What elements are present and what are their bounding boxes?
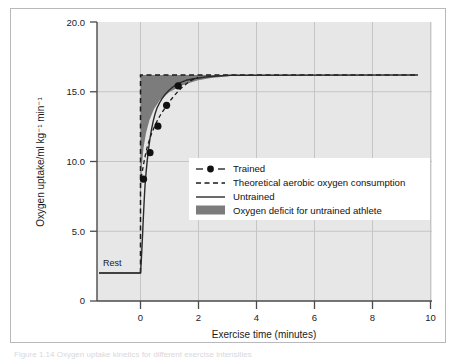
- x-tick-label: 2: [196, 312, 201, 323]
- oxygen-uptake-chart: 20.0 15.0 10.0 5.0 0 0 2 4 6 8 10 Exerci…: [0, 0, 457, 360]
- legend-swatch-icon: [196, 206, 225, 215]
- x-tick-label: 10: [425, 312, 436, 323]
- y-axis-ticks: [90, 22, 97, 301]
- y-tick-label: 20.0: [67, 17, 86, 28]
- chart-legend: Trained Theoretical aerobic oxygen consu…: [189, 158, 430, 220]
- legend-label: Untrained: [233, 191, 275, 202]
- x-tick-label: 0: [138, 312, 143, 323]
- x-tick-label: 4: [254, 312, 259, 323]
- figure-root: 20.0 15.0 10.0 5.0 0 0 2 4 6 8 10 Exerci…: [0, 0, 457, 360]
- legend-label: Trained: [233, 163, 265, 174]
- x-tick-label: 6: [312, 312, 317, 323]
- legend-item-oxygen-deficit: Oxygen deficit for untrained athlete: [196, 205, 382, 216]
- data-point: [140, 176, 147, 183]
- legend-marker-dot-icon: [207, 166, 214, 173]
- data-point: [146, 149, 153, 156]
- y-tick-label: 10.0: [67, 156, 86, 167]
- x-axis-title: Exercise time (minutes): [212, 329, 316, 340]
- figure-caption: Figure 1.14 Oxygen uptake kinetics for d…: [14, 350, 444, 360]
- data-point: [163, 102, 170, 109]
- rest-label: Rest: [103, 258, 122, 268]
- y-tick-label: 0: [80, 295, 85, 306]
- x-axis-ticks: [141, 301, 431, 309]
- x-tick-label: 8: [370, 312, 375, 323]
- y-axis-title: Oxygen uptake/ml kg⁻¹ min⁻¹: [35, 97, 46, 227]
- y-tick-label: 15.0: [67, 86, 86, 97]
- y-tick-label: 5.0: [72, 226, 85, 237]
- data-point: [175, 82, 182, 89]
- legend-label: Theoretical aerobic oxygen consumption: [233, 177, 405, 188]
- legend-label: Oxygen deficit for untrained athlete: [233, 205, 382, 216]
- data-point: [154, 123, 161, 130]
